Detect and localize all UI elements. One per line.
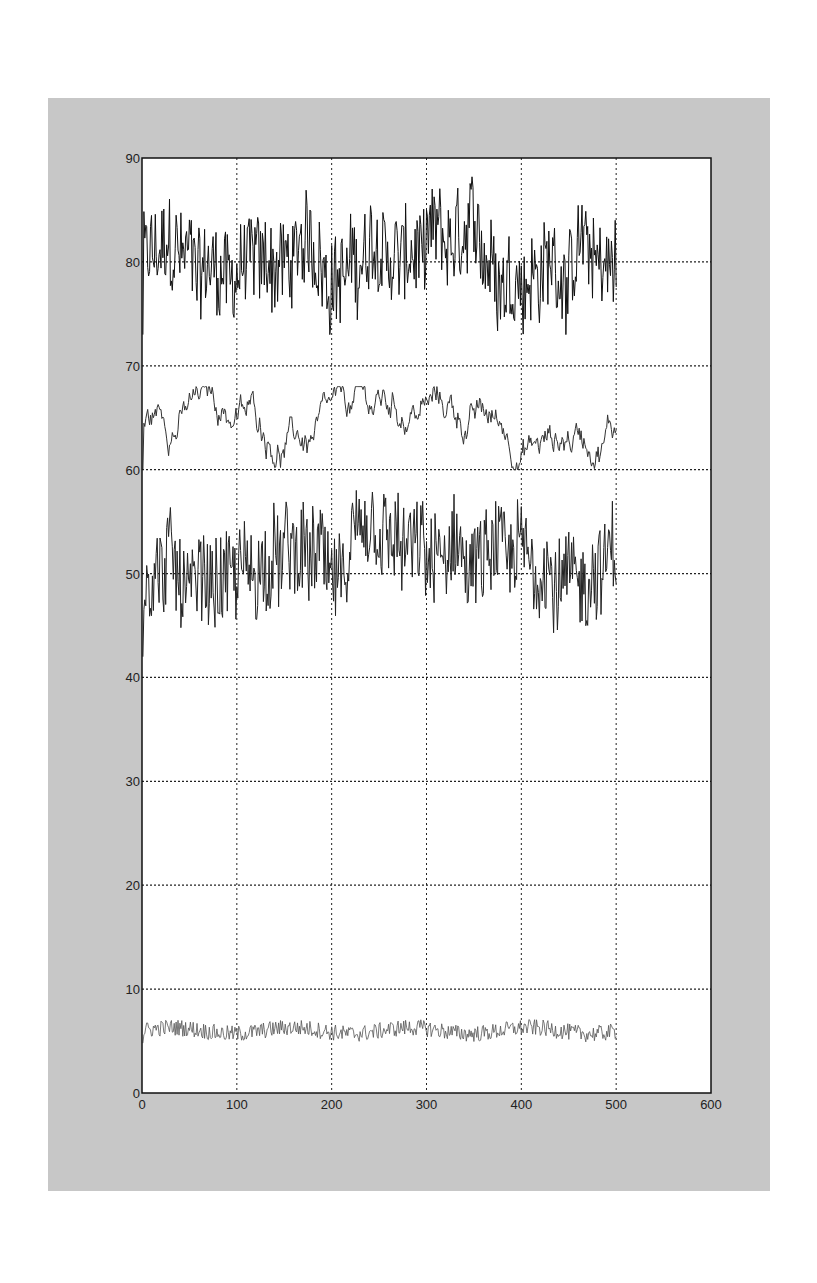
y-tick-label: 70	[126, 359, 140, 374]
x-tick-label: 600	[700, 1097, 722, 1112]
y-tick-label: 20	[126, 878, 140, 893]
x-tick-label: 400	[510, 1097, 532, 1112]
x-axis-ticks: 0100200300400500600	[138, 1097, 721, 1112]
y-tick-label: 40	[126, 670, 140, 685]
page: 0102030405060708090 0100200300400500600	[0, 0, 817, 1283]
y-tick-label: 60	[126, 463, 140, 478]
x-tick-label: 300	[416, 1097, 438, 1112]
y-axis-ticks: 0102030405060708090	[126, 151, 140, 1101]
y-tick-label: 50	[126, 567, 140, 582]
y-tick-label: 30	[126, 774, 140, 789]
x-tick-label: 200	[321, 1097, 343, 1112]
y-tick-label: 90	[126, 151, 140, 166]
y-tick-label: 80	[126, 255, 140, 270]
x-tick-label: 500	[605, 1097, 627, 1112]
y-tick-label: 10	[126, 982, 140, 997]
x-tick-label: 100	[226, 1097, 248, 1112]
x-tick-label: 0	[138, 1097, 145, 1112]
line-chart: 0102030405060708090 0100200300400500600	[0, 0, 817, 1283]
